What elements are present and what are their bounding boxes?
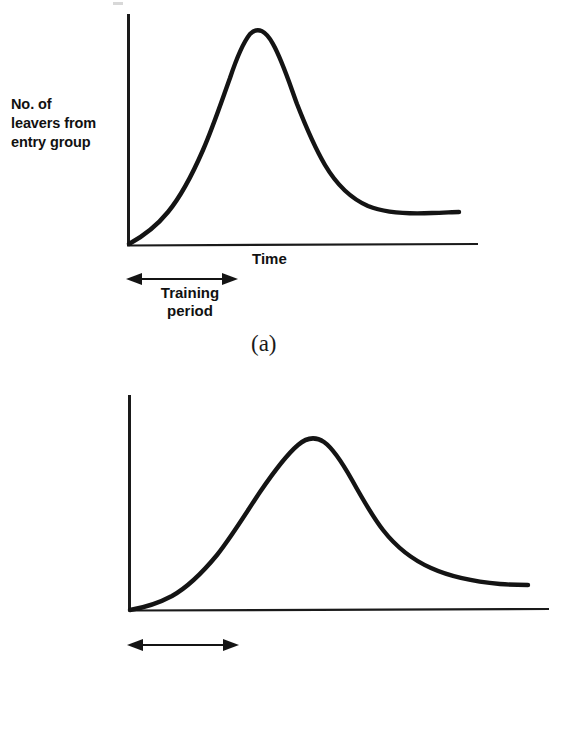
x-axis-line-a bbox=[127, 244, 478, 246]
training-period-arrow-b bbox=[127, 639, 239, 651]
training-period-label-a: Training period bbox=[125, 284, 255, 319]
arrow-head-left-b bbox=[127, 639, 143, 651]
scan-speck bbox=[113, 2, 123, 5]
figure-container: No. of leavers from entry group Time Tra… bbox=[0, 0, 561, 731]
panel-caption-a: (a) bbox=[251, 331, 277, 357]
chart-b-plot bbox=[0, 366, 561, 731]
curve-b bbox=[130, 438, 528, 610]
chart-panel-b: No. of leavers from entry group Time Tra… bbox=[0, 366, 561, 731]
chart-a-plot bbox=[0, 0, 561, 366]
arrow-head-right-b bbox=[223, 639, 239, 651]
chart-panel-a: No. of leavers from entry group Time Tra… bbox=[0, 0, 561, 366]
x-axis-label-a: Time bbox=[252, 250, 287, 267]
curve-a bbox=[129, 30, 459, 244]
x-axis-line-b bbox=[128, 609, 549, 611]
y-axis-label-a: No. of leavers from entry group bbox=[11, 95, 96, 152]
